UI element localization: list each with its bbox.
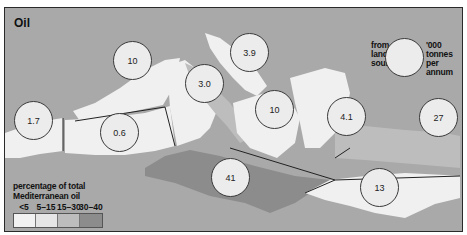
value-circle-libya: 41 — [211, 158, 250, 197]
value-circle-levant: 27 — [419, 98, 458, 137]
value-circle-ionian: 10 — [255, 90, 294, 129]
legend-title: percentage of total Mediterranean oil — [13, 181, 85, 201]
legend-swatches — [13, 213, 103, 228]
legend-labels: <55–1515–3030–40 — [13, 202, 101, 212]
value-circle-spain: 1.7 — [14, 101, 53, 140]
value-circle-adriatic: 3.9 — [230, 33, 269, 72]
legend-swatch-4 — [80, 214, 102, 227]
legend-swatch-2 — [36, 214, 58, 227]
key-circle — [385, 38, 424, 77]
legend-label-2: 5–15 — [35, 202, 57, 212]
value-circle-aegean: 4.1 — [327, 97, 366, 136]
key-right-label: '000 tonnes per annum — [426, 41, 462, 77]
value-circle-italy-west: 3.0 — [185, 64, 224, 103]
map-frame: Oil from all land based sources '000 ton… — [4, 7, 463, 232]
value-circle-france: 10 — [113, 41, 152, 80]
legend-label-1: <5 — [13, 202, 35, 212]
map-title: Oil — [14, 16, 30, 30]
legend-label-4: 30–40 — [79, 202, 101, 212]
value-circle-algeria: 0.6 — [100, 113, 139, 152]
legend-swatch-1 — [14, 214, 36, 227]
legend-label-3: 15–30 — [57, 202, 79, 212]
value-circle-egypt: 13 — [360, 168, 399, 207]
legend-swatch-3 — [58, 214, 80, 227]
